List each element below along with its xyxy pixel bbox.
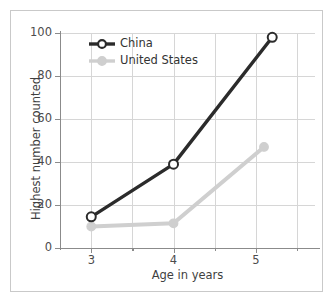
x-tick-minor-3.5 [132, 248, 133, 251]
chart-legend: China United States [88, 36, 198, 68]
data-point [169, 219, 178, 228]
x-tick-label-3: 3 [88, 255, 95, 267]
x-tick-minor-5.5 [297, 248, 298, 251]
x-axis-spine [58, 248, 320, 249]
legend-entry-china[interactable]: China [88, 36, 198, 51]
chart-figure: 020406080100 345 Highest number counted … [0, 0, 335, 304]
series-united-states [87, 143, 268, 231]
x-axis-title: Age in years [60, 268, 315, 282]
legend-entry-united-states[interactable]: United States [88, 53, 198, 68]
y-tick-20 [55, 205, 60, 206]
y-tick-label-0: 0 [45, 242, 52, 254]
legend-marker-china-icon [88, 37, 116, 51]
x-tick-minor-4.5 [215, 248, 216, 251]
legend-marker-united-states-icon [88, 54, 116, 68]
x-tick-label-5: 5 [252, 255, 259, 267]
data-point [169, 160, 178, 169]
y-tick-100 [55, 33, 60, 34]
legend-label-china: China [120, 38, 153, 50]
data-point [268, 33, 277, 42]
y-axis-spine [60, 31, 61, 250]
y-tick-60 [55, 119, 60, 120]
x-tick-label-4: 4 [170, 255, 177, 267]
data-point [260, 143, 269, 152]
data-point [87, 212, 96, 221]
y-tick-80 [55, 76, 60, 77]
legend-label-united-states: United States [120, 55, 198, 67]
y-tick-40 [55, 162, 60, 163]
data-point [87, 222, 96, 231]
y-tick-label-100: 100 [30, 27, 52, 39]
y-axis-title: Highest number counted [29, 41, 43, 256]
y-tick-0 [55, 248, 60, 249]
